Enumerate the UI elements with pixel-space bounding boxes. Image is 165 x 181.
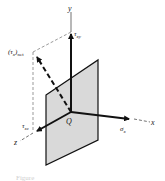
- y-axis-label: y: [67, 4, 72, 13]
- origin-label: Q: [66, 117, 72, 126]
- construction-line-top: [33, 32, 71, 52]
- stress-diagram: y x z Q τxy σx τxz (τx)net Figure: [0, 0, 165, 181]
- figure-caption: Figure: [16, 174, 34, 181]
- tau-xz-label: τxz: [22, 122, 29, 131]
- x-axis-label: x: [150, 118, 155, 127]
- tau-net-label: (τx)net: [8, 48, 24, 57]
- z-axis-label: z: [13, 138, 18, 147]
- tau-xy-label: τxy: [74, 30, 82, 39]
- x-axis-line: [134, 119, 150, 122]
- sigma-x-label: σx: [120, 125, 126, 134]
- z-axis-line: [20, 133, 33, 141]
